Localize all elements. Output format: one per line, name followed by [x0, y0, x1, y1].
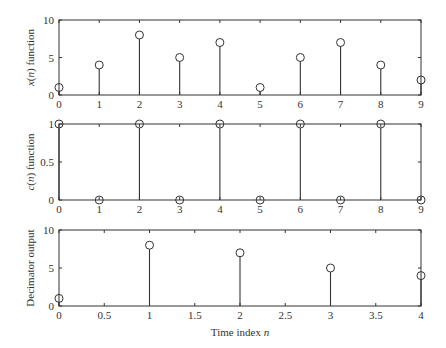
x-tick-label: 9 [418, 98, 424, 110]
y-axis-label: c(n) function [24, 133, 37, 191]
x-tick-label: 1.5 [188, 309, 202, 321]
y-tick-label: 5 [49, 52, 55, 64]
x-tick-label: 9 [418, 203, 424, 215]
y-tick-label: 0 [49, 300, 55, 312]
x-tick-label: 8 [378, 203, 384, 215]
stem-marker [256, 84, 264, 92]
y-tick-label: 10 [43, 224, 55, 236]
x-tick-label: 4 [217, 203, 223, 215]
stem-marker [216, 39, 224, 47]
x-tick-label: 3 [177, 98, 183, 110]
x-tick-label: 0.5 [97, 309, 111, 321]
x-tick-label: 5 [257, 203, 263, 215]
y-axis-label: x(n) function [24, 28, 37, 87]
x-tick-label: 0 [56, 203, 62, 215]
x-tick-label: 2 [137, 98, 143, 110]
stem-marker [176, 54, 184, 62]
stem-marker [146, 241, 154, 249]
stem-marker [377, 61, 385, 69]
stem-marker [337, 39, 345, 47]
y-tick-label: 1 [49, 118, 55, 130]
x-tick-label: 8 [378, 98, 384, 110]
x-tick-label: 4 [418, 309, 424, 321]
x-tick-label: 2 [137, 203, 143, 215]
x-tick-label: 1 [147, 309, 153, 321]
x-tick-label: 0 [56, 98, 62, 110]
y-tick-label: 0.5 [40, 156, 54, 168]
x-tick-label: 6 [298, 203, 304, 215]
x-tick-label: 5 [257, 98, 263, 110]
stem-plot-figure: 01234567890510x(n) function012345678900.… [0, 0, 446, 348]
y-tick-label: 0 [49, 89, 55, 101]
stem-panel-1: 01234567890510x(n) function [24, 14, 425, 110]
stem-panel-3: 00.511.522.533.540510Decimator outputTim… [24, 224, 425, 338]
axes-frame [59, 20, 421, 95]
stem-marker [327, 264, 335, 272]
y-tick-label: 5 [49, 262, 55, 274]
x-tick-label: 0 [56, 309, 62, 321]
x-tick-label: 7 [338, 203, 344, 215]
stem-marker [236, 249, 244, 257]
x-axis-label: Time index n [211, 326, 270, 338]
y-tick-label: 10 [43, 14, 55, 26]
stem-marker [135, 31, 143, 39]
x-tick-label: 3.5 [369, 309, 383, 321]
stem-marker [95, 61, 103, 69]
x-tick-label: 1 [96, 98, 102, 110]
x-tick-label: 3 [177, 203, 183, 215]
x-tick-label: 6 [298, 98, 304, 110]
y-tick-label: 0 [49, 194, 55, 206]
x-tick-label: 4 [217, 98, 223, 110]
x-tick-label: 7 [338, 98, 344, 110]
x-tick-label: 2 [237, 309, 243, 321]
y-axis-label: Decimator output [24, 229, 36, 306]
x-tick-label: 3 [328, 309, 334, 321]
axes-frame [59, 124, 421, 200]
x-tick-label: 1 [96, 203, 102, 215]
stem-marker [296, 54, 304, 62]
stem-panel-2: 012345678900.51c(n) function [24, 118, 425, 215]
x-tick-label: 2.5 [278, 309, 292, 321]
